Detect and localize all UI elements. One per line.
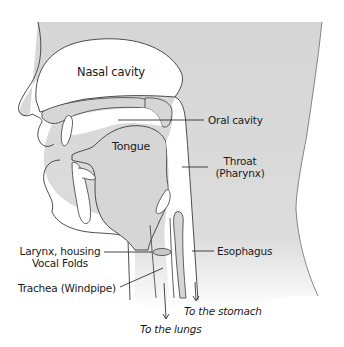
label-esophagus: Esophagus (217, 245, 272, 257)
label-larynx-line2: Vocal Folds (14, 257, 106, 269)
label-oral-cavity: Oral cavity (208, 114, 263, 126)
label-nasal-cavity: Nasal cavity (77, 66, 145, 78)
vocal-tract-diagram (0, 0, 344, 347)
label-throat: Throat (Pharynx) (210, 155, 270, 179)
vocal-folds (153, 249, 171, 256)
label-larynx-line1: Larynx, housing (14, 245, 106, 257)
label-larynx: Larynx, housing Vocal Folds (14, 245, 106, 269)
label-trachea: Trachea (Windpipe) (18, 282, 116, 294)
label-to-stomach: To the stomach (184, 305, 262, 317)
label-tongue: Tongue (112, 141, 150, 153)
label-throat-line1: Throat (210, 155, 270, 167)
label-throat-line2: (Pharynx) (210, 167, 270, 179)
label-to-lungs: To the lungs (140, 323, 201, 335)
